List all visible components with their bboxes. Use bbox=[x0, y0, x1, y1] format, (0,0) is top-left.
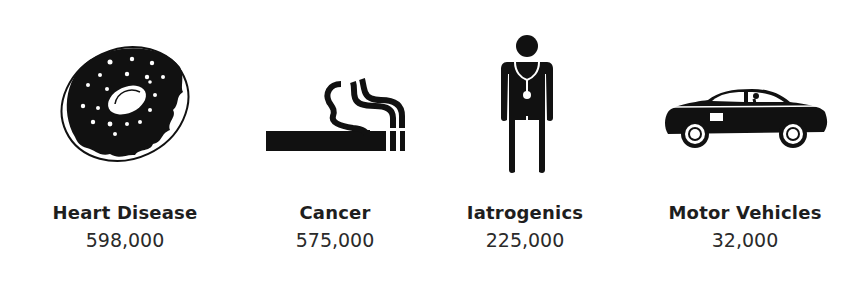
category-label: Motor Vehicles bbox=[645, 202, 845, 223]
category-label: Heart Disease bbox=[25, 202, 225, 223]
category-value: 225,000 bbox=[425, 229, 625, 251]
item-heart-disease: Heart Disease 598,000 bbox=[25, 0, 225, 291]
category-value: 598,000 bbox=[25, 229, 225, 251]
category-value: 32,000 bbox=[645, 229, 845, 251]
category-label: Iatrogenics bbox=[425, 202, 625, 223]
car-icon bbox=[662, 88, 832, 154]
category-label: Cancer bbox=[235, 202, 435, 223]
item-motor-vehicles: Motor Vehicles 32,000 bbox=[645, 0, 845, 291]
item-cancer: Cancer 575,000 bbox=[235, 0, 435, 291]
doctor-icon bbox=[499, 34, 555, 174]
item-iatrogenics: Iatrogenics 225,000 bbox=[425, 0, 625, 291]
cigarette-icon bbox=[263, 78, 413, 156]
donut-icon bbox=[55, 42, 195, 167]
category-value: 575,000 bbox=[235, 229, 435, 251]
